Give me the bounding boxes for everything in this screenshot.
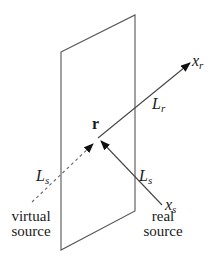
x-r-label: xr xyxy=(192,53,203,71)
reflected-ray xyxy=(98,63,190,138)
real-source-caption: real source xyxy=(140,209,186,239)
L-r-label: Lr xyxy=(152,96,165,114)
L-s-right-label: Ls xyxy=(139,168,152,186)
reflecting-plane xyxy=(61,15,135,250)
incident-ray xyxy=(101,141,162,205)
virtual-source-caption: virtual source xyxy=(8,209,54,239)
point-r-label: r xyxy=(92,116,99,132)
L-s-left-label: Ls xyxy=(36,168,49,186)
